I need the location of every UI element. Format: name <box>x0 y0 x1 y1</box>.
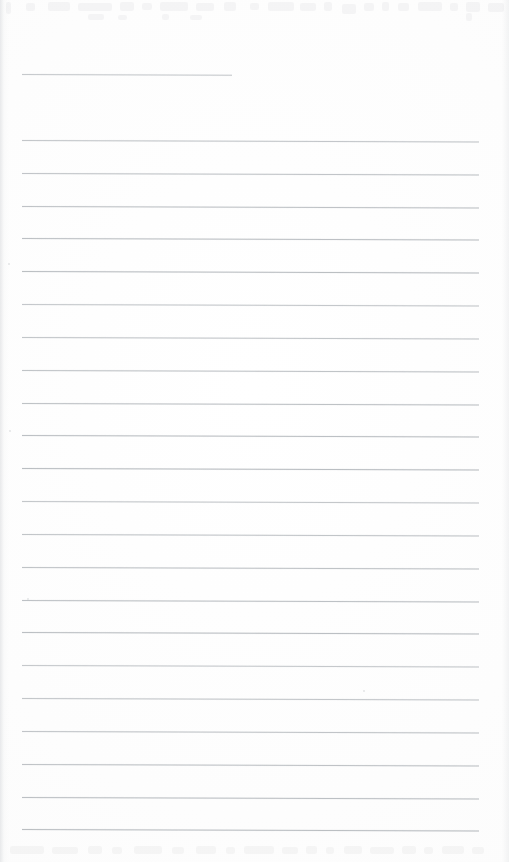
ruled-line <box>22 567 479 569</box>
ghost-smudge <box>162 14 169 20</box>
scan-speck <box>9 430 11 432</box>
ghost-smudge <box>78 3 112 11</box>
ruled-line <box>22 829 479 831</box>
ruled-line <box>22 698 479 700</box>
ghost-smudge <box>196 3 214 11</box>
ghost-smudge <box>306 846 317 854</box>
scan-speck <box>8 263 10 265</box>
ghost-smudge <box>88 846 102 854</box>
ghost-smudge <box>6 2 11 14</box>
ruled-line <box>22 764 479 766</box>
ghost-smudge <box>244 846 274 854</box>
ghost-smudge <box>282 847 298 854</box>
scanned-page <box>0 0 509 862</box>
ghost-smudge <box>48 2 70 11</box>
ghost-smudge <box>196 846 216 854</box>
ghost-smudge <box>190 15 202 20</box>
ruled-line <box>22 403 479 405</box>
ruled-line <box>22 304 479 306</box>
ghost-smudge <box>450 3 458 11</box>
ghost-smudge <box>120 2 134 11</box>
ruled-line <box>22 435 479 437</box>
ruled-line <box>22 271 479 273</box>
ghost-smudge <box>88 14 104 20</box>
right-edge-shadow <box>502 0 509 862</box>
ruled-line <box>22 600 479 602</box>
scan-bleedthrough-bottom <box>0 842 509 862</box>
ghost-smudge <box>224 2 236 11</box>
ruled-line <box>22 206 479 208</box>
ghost-smudge <box>472 847 484 854</box>
ghost-smudge <box>424 847 433 854</box>
ghost-smudge <box>52 847 78 854</box>
ghost-smudge <box>342 4 356 14</box>
ghost-smudge <box>324 2 332 11</box>
scan-speck <box>363 690 365 692</box>
ghost-smudge <box>118 15 127 20</box>
left-edge-shadow <box>0 0 9 862</box>
ruled-line <box>22 731 479 733</box>
ruled-line <box>22 534 479 536</box>
ghost-smudge <box>300 3 316 11</box>
header-underline-rule <box>22 74 232 76</box>
ghost-smudge <box>172 847 184 854</box>
ghost-smudge <box>370 847 394 854</box>
ghost-smudge <box>10 846 44 854</box>
ghost-smudge <box>442 846 464 854</box>
ghost-smudge <box>26 3 35 11</box>
ghost-smudge <box>134 846 162 854</box>
ghost-smudge <box>398 3 409 11</box>
ghost-smudge <box>344 846 362 854</box>
scan-bleedthrough-top <box>0 0 509 22</box>
ghost-smudge <box>268 2 294 11</box>
ruled-line <box>22 370 479 372</box>
ruled-line <box>22 665 479 667</box>
ghost-smudge <box>466 13 472 21</box>
ghost-smudge <box>402 846 416 854</box>
ruled-line <box>22 501 479 503</box>
ghost-smudge <box>250 3 259 10</box>
ghost-smudge <box>418 2 442 11</box>
ruled-line <box>22 468 479 470</box>
ruled-line <box>22 632 479 634</box>
ruled-line <box>22 797 479 799</box>
ghost-smudge <box>382 2 389 11</box>
ruled-line <box>22 173 479 175</box>
ghost-smudge <box>160 2 188 11</box>
ghost-smudge <box>364 3 374 11</box>
ghost-smudge <box>112 847 122 854</box>
ghost-smudge <box>466 2 480 12</box>
ruled-line <box>22 238 479 240</box>
ghost-smudge <box>226 847 235 854</box>
ruled-line <box>22 337 479 339</box>
ruled-line <box>22 140 479 142</box>
ghost-smudge <box>488 3 504 12</box>
ghost-smudge <box>326 847 334 854</box>
ghost-smudge <box>142 3 152 10</box>
